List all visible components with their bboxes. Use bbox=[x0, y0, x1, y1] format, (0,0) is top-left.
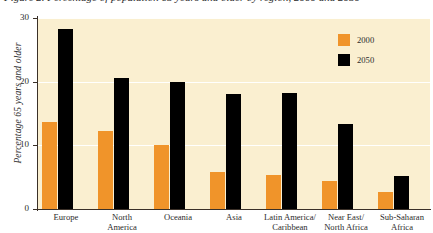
bar-group bbox=[94, 18, 150, 209]
bar-2000 bbox=[42, 122, 57, 209]
bar-2000 bbox=[322, 181, 337, 209]
bar-group bbox=[38, 18, 94, 209]
bar-2050 bbox=[282, 93, 297, 210]
bar-2050 bbox=[58, 29, 73, 209]
bar-group bbox=[206, 18, 262, 209]
bar-2050 bbox=[394, 176, 409, 209]
x-axis-label: Sub-SaharanAfrica bbox=[363, 212, 433, 233]
legend-item: 2000 bbox=[338, 32, 374, 47]
bar-2000 bbox=[210, 172, 225, 209]
bar-2000 bbox=[154, 145, 169, 209]
bar-group bbox=[150, 18, 206, 209]
bar-2000 bbox=[378, 192, 393, 209]
y-tick-label-20: 20 bbox=[3, 76, 29, 86]
bar-2050 bbox=[226, 94, 241, 209]
chart-title-cropped: Figure 2. Percentage of population 65 ye… bbox=[0, 0, 433, 7]
bar-2000 bbox=[266, 175, 281, 209]
x-axis-label-line: Africa bbox=[363, 222, 433, 232]
bar-group bbox=[262, 18, 318, 209]
bar-2000 bbox=[98, 131, 113, 209]
y-tick-label-0: 0 bbox=[3, 203, 29, 213]
y-tick-label-30: 30 bbox=[3, 12, 29, 22]
y-tick-label-10: 10 bbox=[3, 139, 29, 149]
legend-swatch-2050 bbox=[338, 54, 350, 66]
bar-group bbox=[374, 18, 430, 209]
legend: 20002050 bbox=[338, 32, 374, 72]
x-axis-label-line: Sub-Saharan bbox=[363, 212, 433, 222]
y-tick-0 bbox=[33, 209, 38, 210]
legend-label-2050: 2050 bbox=[357, 55, 374, 65]
bar-chart: Figure 2. Percentage of population 65 ye… bbox=[0, 0, 433, 233]
x-axis-label-line: America bbox=[83, 222, 161, 232]
bar-2050 bbox=[114, 78, 129, 209]
chart-title: Figure 2. Percentage of population 65 ye… bbox=[4, 0, 360, 3]
legend-item: 2050 bbox=[338, 52, 374, 67]
bar-2050 bbox=[338, 124, 353, 209]
y-axis-title: Percentage 65 years and older bbox=[13, 28, 23, 178]
bar-2050 bbox=[170, 82, 185, 209]
legend-label-2000: 2000 bbox=[357, 35, 374, 45]
legend-swatch-2000 bbox=[338, 34, 350, 46]
